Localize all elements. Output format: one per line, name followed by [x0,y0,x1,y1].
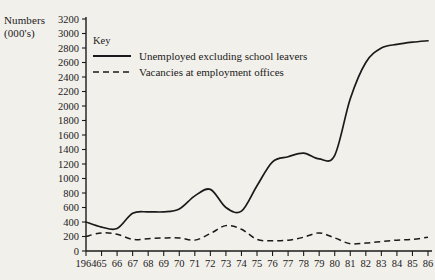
y-tick-label: 200 [63,231,79,242]
x-tick-label: 78 [298,258,309,269]
x-tick-label: 84 [392,258,403,269]
chart-legend: Key Unemployed excluding school leavers … [93,35,307,78]
x-axis-ticks: 1964656667686970717273747576777879808182… [76,251,434,269]
y-tick-label: 1600 [58,130,79,141]
x-tick-label: 75 [252,258,263,269]
y-tick-label: 3200 [58,14,79,25]
y-axis-title-line-1: Numbers [4,14,45,27]
x-tick-label: 85 [407,258,418,269]
y-tick-label: 2200 [58,86,79,97]
x-tick-label: 86 [423,258,434,269]
y-tick-label: 600 [63,202,79,213]
x-tick-label: 68 [143,258,154,269]
x-tick-label: 1964 [76,258,98,269]
unemployment-vacancies-chart: Numbers (000's) 020040060080010001200140… [0,0,435,280]
legend-title: Key [93,35,111,46]
y-axis-title-line-2: (000's) [4,27,45,40]
y-tick-label: 1400 [58,144,79,155]
series-vacancies-line [86,225,428,244]
y-tick-label: 3000 [58,28,79,39]
legend-label-unemployed: Unemployed excluding school leavers [139,50,307,62]
y-tick-label: 1200 [58,159,79,170]
x-tick-label: 74 [236,258,247,269]
x-tick-label: 71 [190,258,201,269]
y-tick-label: 2400 [58,72,79,83]
x-tick-label: 81 [345,258,356,269]
x-tick-label: 80 [329,258,340,269]
x-tick-label: 76 [267,258,278,269]
x-tick-label: 72 [205,258,216,269]
y-tick-label: 0 [74,246,79,257]
y-tick-label: 2600 [58,57,79,68]
y-tick-label: 1800 [58,115,79,126]
x-tick-label: 82 [361,258,372,269]
y-tick-label: 400 [63,217,79,228]
x-tick-label: 65 [96,258,107,269]
chart-canvas: 0200400600800100012001400160018002000220… [0,0,435,280]
x-tick-label: 70 [174,258,185,269]
x-tick-label: 69 [158,258,169,269]
x-tick-label: 66 [112,258,123,269]
y-axis-title: Numbers (000's) [4,14,45,40]
legend-label-vacancies: Vacancies at employment offices [139,66,284,78]
x-tick-label: 73 [221,258,232,269]
x-tick-label: 67 [127,258,138,269]
y-tick-label: 2000 [58,101,79,112]
y-tick-label: 1000 [58,173,79,184]
y-tick-label: 800 [63,188,79,199]
y-axis-ticks: 0200400600800100012001400160018002000220… [58,14,86,257]
x-tick-label: 83 [376,258,387,269]
x-tick-label: 79 [314,258,325,269]
y-tick-label: 2800 [58,43,79,54]
x-tick-label: 77 [283,258,294,269]
